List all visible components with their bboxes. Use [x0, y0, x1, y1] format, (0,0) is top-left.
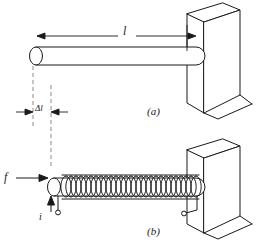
length-label: l — [123, 25, 126, 37]
panel-b — [16, 139, 252, 239]
left-terminal — [56, 210, 61, 215]
current-label: i — [39, 212, 42, 222]
physics-figure: l Δl (a) f i (b) — [0, 0, 271, 248]
force-label: f — [4, 171, 7, 183]
caption-a: (a) — [147, 106, 160, 117]
delta-length-label: Δl — [35, 104, 43, 113]
caption-b: (b) — [147, 226, 160, 237]
right-terminal — [182, 211, 187, 216]
current-arrow — [48, 196, 55, 212]
length-dimension-a — [37, 33, 196, 39]
rod-a — [30, 47, 206, 65]
force-arrow — [16, 175, 48, 182]
